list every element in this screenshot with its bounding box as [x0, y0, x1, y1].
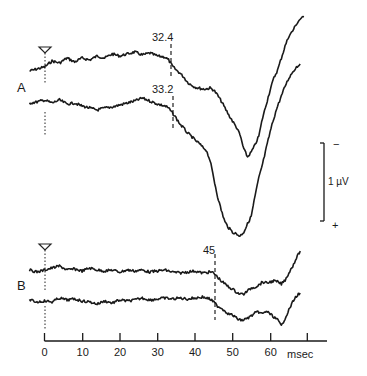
scale-bar: − 1 µV + — [320, 138, 349, 231]
onset-label-b: 45 — [203, 244, 215, 256]
x-axis-unit: msec — [287, 348, 314, 360]
panel-label-a: A — [17, 80, 26, 95]
x-tick-label: 0 — [41, 346, 47, 358]
x-tick-label: 20 — [114, 346, 126, 358]
trace-b-2 — [30, 293, 301, 325]
onset-label-a1: 32.4 — [152, 31, 173, 43]
x-tick-label: 30 — [152, 346, 164, 358]
stimulus-arrow-icon-a — [39, 47, 51, 53]
stimulus-arrow-icon-b — [39, 244, 51, 250]
evoked-potential-figure: 32.4 33.2 45 A B − 1 µV + 0102030405060 … — [0, 0, 367, 376]
scale-label: 1 µV — [328, 176, 349, 187]
x-tick-label: 60 — [265, 346, 277, 358]
traces — [30, 17, 304, 326]
trace-b-1 — [30, 251, 301, 295]
scale-minus: − — [333, 138, 339, 150]
panel-label-b: B — [17, 278, 26, 293]
x-tick-label: 50 — [227, 346, 239, 358]
x-axis: 0102030405060 msec — [41, 333, 327, 360]
x-tick-label: 40 — [189, 346, 201, 358]
onset-label-a2: 33.2 — [152, 83, 173, 95]
x-tick-label: 10 — [77, 346, 89, 358]
scale-plus: + — [332, 219, 338, 231]
